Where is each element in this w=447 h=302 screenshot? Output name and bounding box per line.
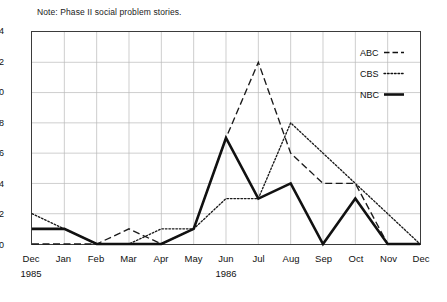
legend-swatch-solid-icon [384,91,404,98]
x-axis-tick-label: Feb [88,254,104,264]
legend-item-nbc: NBC [360,84,418,105]
x-axis-tick-label: Oct [349,254,364,264]
x-axis-tick-label: Aug [283,254,300,264]
legend-label: ABC [360,48,379,58]
x-axis-tick-label: Apr [154,254,169,264]
x-axis-year-label: 1985 [20,269,41,279]
legend-swatch-dashed-icon [384,49,404,56]
x-axis-tick-label: Mar [120,254,136,264]
x-axis-tick-label: Dec [23,254,40,264]
x-axis-tick-label: Nov [380,254,397,264]
x-axis-tick-label: Sep [315,254,332,264]
x-axis-tick-label: Jun [218,254,233,264]
x-axis-tick-label: Jan [56,254,71,264]
chart-legend: ABCCBSNBC [360,42,418,105]
line-chart: Note: Phase II social problem stories. 1… [0,0,447,302]
legend-label: CBS [360,69,379,79]
x-axis-tick-label: May [185,254,203,264]
legend-item-cbs: CBS [360,63,418,84]
legend-item-abc: ABC [360,42,418,63]
x-axis-tick-label: Dec [413,254,430,264]
legend-label: NBC [360,90,379,100]
series-line-nbc [32,138,420,244]
x-axis-tick-label: Jul [252,254,264,264]
legend-swatch-dotted-icon [384,70,404,77]
x-axis-year-label: 1986 [215,269,236,279]
